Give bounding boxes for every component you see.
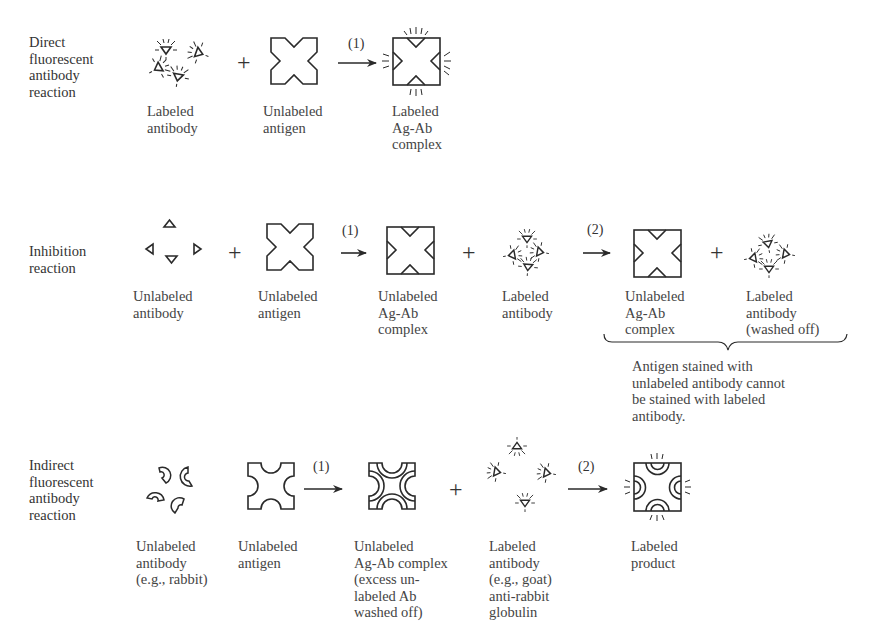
antigen-icon	[248, 463, 294, 509]
row-label-inhibition: Inhibition reaction	[29, 243, 86, 276]
plus-sign: +	[462, 240, 476, 264]
item-label: Unlabeled Ag-Ab complex (excess un- labe…	[354, 538, 448, 621]
item-label: Unlabeled Ag-Ab complex	[625, 288, 685, 338]
item-label: Labeled antibody	[147, 103, 198, 136]
inhibition-note: Antigen stained with unlabeled antibody …	[632, 358, 785, 424]
unlabeled-complex-icon	[387, 227, 434, 274]
item-label: Labeled antibody (washed off)	[746, 288, 819, 338]
unlabeled-antibody-icon	[146, 220, 201, 263]
item-label: Labeled antibody (e.g., goat) anti-rabbi…	[489, 538, 552, 621]
item-label: Unlabeled antigen	[238, 538, 298, 571]
item-label: Labeled Ag-Ab complex	[392, 103, 442, 153]
labeled-antibody-icon	[144, 39, 212, 89]
labeled-complex-icon	[382, 27, 451, 96]
plus-sign: +	[710, 240, 724, 264]
item-label: Unlabeled antibody	[133, 288, 193, 321]
labeled-product-icon	[624, 453, 691, 521]
antigen-icon	[271, 38, 317, 84]
step-label: (1)	[342, 223, 358, 239]
step-label: (1)	[313, 459, 329, 475]
plus-sign: +	[449, 477, 463, 501]
plus-sign: +	[228, 240, 242, 264]
plus-sign: +	[237, 50, 251, 74]
labeled-antibody-icon	[742, 233, 796, 278]
row-label-direct: Direct fluorescent antibody reaction	[29, 34, 93, 100]
step-label: (2)	[578, 459, 594, 475]
item-label: Labeled product	[631, 538, 678, 571]
unlabeled-complex-icon	[369, 463, 415, 509]
item-label: Unlabeled Ag-Ab complex	[378, 288, 438, 338]
unlabeled-complex-icon	[634, 230, 681, 277]
item-label: Labeled antibody	[502, 288, 553, 321]
rabbit-antibody-icon	[147, 467, 192, 513]
row-label-indirect: Indirect fluorescent antibody reaction	[29, 457, 93, 523]
step-label: (1)	[348, 36, 364, 52]
step-label: (2)	[587, 222, 603, 238]
antigen-icon	[267, 224, 313, 270]
labeled-antibody-icon	[501, 229, 550, 277]
labeled-antibody-icon	[486, 437, 558, 512]
item-label: Unlabeled antibody (e.g., rabbit)	[136, 538, 208, 588]
item-label: Unlabeled antigen	[258, 288, 318, 321]
item-label: Unlabeled antigen	[263, 103, 323, 136]
